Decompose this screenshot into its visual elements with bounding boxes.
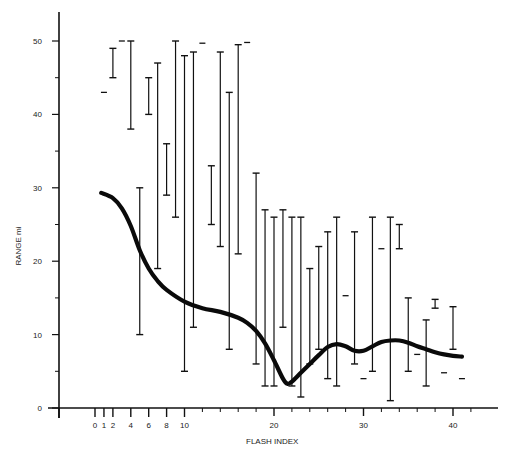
error-bar	[262, 210, 269, 386]
error-bar	[387, 217, 394, 401]
x-tick-label: 8	[164, 421, 169, 430]
error-bar	[333, 217, 340, 386]
chart-plot: 0102030405001246810203040 FLASH INDEX RA…	[0, 0, 525, 457]
error-bar	[396, 225, 403, 249]
error-bar	[217, 52, 224, 247]
error-bar	[172, 41, 179, 217]
error-bar	[450, 307, 457, 350]
error-bar	[208, 166, 215, 225]
y-tick-label: 0	[38, 404, 43, 413]
y-tick-label: 20	[33, 257, 42, 266]
y-tick-label: 30	[33, 184, 42, 193]
x-tick-label: 1	[102, 421, 107, 430]
y-tick-label: 40	[33, 110, 42, 119]
error-bar	[432, 299, 439, 308]
x-tick-label: 30	[359, 421, 368, 430]
error-bar	[136, 188, 143, 335]
x-tick-label: 2	[111, 421, 116, 430]
error-bar	[226, 92, 233, 349]
error-bar	[163, 144, 170, 195]
y-axis-title: RANGE mi	[14, 226, 23, 265]
y-tick-label: 10	[33, 331, 42, 340]
error-bar	[127, 41, 134, 129]
error-bar	[288, 217, 295, 386]
x-tick-label: 40	[449, 421, 458, 430]
error-bar	[190, 52, 197, 327]
x-tick-label: 0	[93, 421, 98, 430]
x-axis-title: FLASH INDEX	[246, 437, 299, 446]
error-bar	[145, 78, 152, 115]
error-bar	[324, 232, 331, 379]
x-tick-label: 10	[180, 421, 189, 430]
error-bar	[351, 232, 358, 364]
error-bar	[315, 247, 322, 350]
x-tick-label: 20	[270, 421, 279, 430]
error-bar	[279, 210, 286, 327]
error-bar	[154, 63, 161, 269]
chart-container: 0102030405001246810203040 FLASH INDEX RA…	[0, 0, 525, 457]
x-tick-label: 4	[129, 421, 134, 430]
error-bar	[109, 48, 116, 77]
x-tick-label: 6	[146, 421, 151, 430]
error-bar	[423, 320, 430, 386]
error-bar	[235, 45, 242, 254]
error-bar	[306, 269, 313, 364]
error-bar	[181, 56, 188, 372]
error-bars	[101, 41, 465, 401]
error-bar	[405, 298, 412, 371]
y-tick-label: 50	[33, 37, 42, 46]
